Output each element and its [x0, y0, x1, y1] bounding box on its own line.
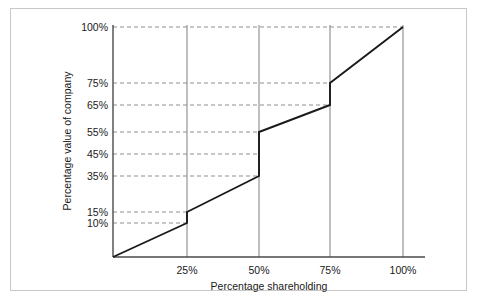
y-tick-label-10: 10% — [87, 217, 108, 229]
y-tick-label-65: 65% — [87, 99, 108, 111]
y-tick-label-35: 35% — [87, 170, 108, 182]
x-tick-label-75: 75% — [319, 264, 340, 276]
horizontal-gridlines — [113, 27, 403, 223]
x-axis-title: Percentage shareholding — [211, 280, 328, 292]
chart-plot-area: 100% 75% 65% 55% 45% 35% 15% 10% 25% 50%… — [0, 0, 479, 307]
y-tick-label-75: 75% — [87, 77, 108, 89]
figure-container: 100% 75% 65% 55% 45% 35% 15% 10% 25% 50%… — [0, 0, 479, 307]
y-tick-label-55: 55% — [87, 126, 108, 138]
y-axis-title: Percentage value of company — [61, 71, 73, 211]
x-tick-label-50: 50% — [248, 264, 269, 276]
axes — [113, 25, 425, 257]
x-tick-label-25: 25% — [176, 264, 197, 276]
y-tick-label-100: 100% — [81, 21, 108, 33]
vertical-gridlines — [187, 25, 403, 257]
y-tick-label-45: 45% — [87, 148, 108, 160]
x-tick-labels: 25% 50% 75% 100% — [176, 264, 416, 276]
y-tick-labels: 100% 75% 65% 55% 45% 35% 15% 10% — [81, 21, 108, 229]
x-tick-label-100: 100% — [390, 264, 417, 276]
